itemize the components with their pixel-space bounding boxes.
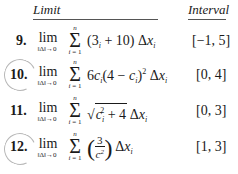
problem-number: 11. bbox=[10, 103, 27, 119]
header-limit: Limit bbox=[33, 2, 60, 18]
problem-number: 9. bbox=[16, 33, 27, 49]
header-rule-interval bbox=[188, 19, 226, 20]
interval-value: [1, 3] bbox=[196, 139, 226, 155]
limit-operator: lim‖Δ‖→0 bbox=[33, 137, 63, 159]
header-rule-limit bbox=[33, 19, 158, 20]
sigma-icon: nΣi = 1 bbox=[66, 95, 84, 126]
problem-9: 9. lim‖Δ‖→0 nΣi = 1 (3ci + 10) Δxi [−1, … bbox=[0, 27, 238, 61]
limit-operator: lim‖Δ‖→0 bbox=[33, 31, 63, 53]
sigma-icon: nΣi = 1 bbox=[66, 59, 84, 90]
problem-10: 10. lim‖Δ‖→0 nΣi = 1 6ci(4 − ci)2 Δxi [0… bbox=[0, 61, 238, 95]
summand-expression: √ci2 + 4 Δxi bbox=[87, 103, 147, 127]
problem-number: 12. bbox=[10, 139, 28, 155]
problem-number: 10. bbox=[10, 67, 28, 83]
summand-expression: (3ci + 10) Δxi bbox=[87, 33, 155, 50]
sigma-icon: nΣi = 1 bbox=[66, 131, 84, 162]
problem-12: 12. lim‖Δ‖→0 nΣi = 1 (3c2) Δxi [1, 3] bbox=[0, 133, 238, 167]
header-interval: Interval bbox=[188, 2, 229, 18]
interval-value: [0, 3] bbox=[196, 103, 226, 119]
limit-operator: lim‖Δ‖→0 bbox=[33, 65, 63, 87]
interval-value: [−1, 5] bbox=[192, 33, 230, 49]
summand-expression: 6ci(4 − ci)2 Δxi bbox=[87, 67, 167, 85]
sigma-icon: nΣi = 1 bbox=[66, 25, 84, 56]
limit-operator: lim‖Δ‖→0 bbox=[33, 101, 63, 123]
interval-value: [0, 4] bbox=[196, 67, 226, 83]
summand-expression: (3c2) Δxi bbox=[87, 135, 133, 160]
problem-11: 11. lim‖Δ‖→0 nΣi = 1 √ci2 + 4 Δxi [0, 3] bbox=[0, 97, 238, 131]
